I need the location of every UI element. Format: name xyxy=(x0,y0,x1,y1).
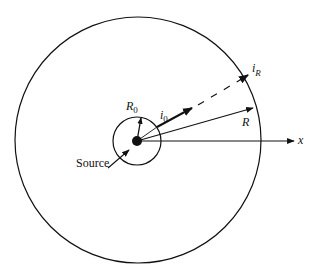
inner-current-label: i0 xyxy=(160,108,168,124)
outer-radius-label: R xyxy=(241,115,250,129)
dashed-radial-line xyxy=(198,80,240,105)
outer-current-arrow xyxy=(240,75,248,80)
inner-radius-label: R0 xyxy=(125,99,138,115)
radial-line xyxy=(137,127,157,141)
source-label: Source xyxy=(76,156,109,170)
source-pointer-arrow xyxy=(108,150,129,168)
outer-current-label: iR xyxy=(252,61,261,78)
source-radial-diagram: Source R0 i0 iR R x xyxy=(0,0,319,275)
x-axis-label: x xyxy=(297,133,304,147)
